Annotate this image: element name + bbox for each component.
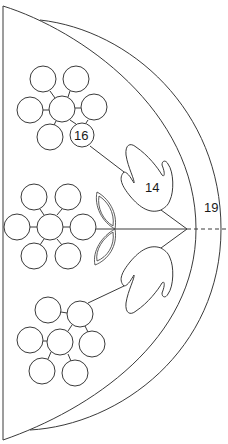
- bead-callout-label: 16: [74, 128, 88, 143]
- lower-stem: [161, 229, 187, 248]
- bottom-bead-cluster: [17, 297, 105, 386]
- top-bead-cluster: [17, 66, 107, 150]
- upper-stem: [161, 210, 187, 229]
- upper-leaf: [121, 145, 173, 212]
- leaf-callout-label: 14: [145, 180, 159, 195]
- bead-to-leaf-connector-top: [90, 146, 124, 172]
- middle-bead-cluster: [4, 184, 96, 269]
- bead-to-leaf-connector-bottom: [88, 286, 124, 303]
- lower-leaf: [121, 247, 173, 314]
- rim-callout-label: 19: [204, 200, 218, 215]
- semicircle-ornament-diagram: 16 14 19: [0, 0, 228, 444]
- lower-petal-outer: [94, 229, 115, 265]
- upper-petal-outer: [96, 192, 115, 229]
